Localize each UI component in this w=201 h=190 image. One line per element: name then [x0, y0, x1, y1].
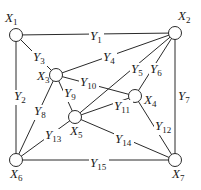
- node-label-x1: X1: [4, 10, 17, 27]
- node-label-x2: X2: [177, 8, 190, 25]
- node-label-x3: X3: [36, 68, 50, 85]
- node-x6: [10, 154, 23, 167]
- node-x2: [169, 27, 182, 40]
- diagram-svg: Y1Y2Y3Y4Y5Y6Y7Y8Y9Y10Y11Y12Y13Y14Y15X1X2…: [0, 0, 201, 190]
- node-x3: [50, 69, 63, 82]
- labels-layer: Y1Y2Y3Y4Y5Y6Y7Y8Y9Y10Y11Y12Y13Y14Y15X1X2…: [4, 8, 192, 183]
- node-label-x7: X7: [171, 166, 185, 183]
- node-label-x6: X6: [9, 166, 23, 183]
- network-diagram: Y1Y2Y3Y4Y5Y6Y7Y8Y9Y10Y11Y12Y13Y14Y15X1X2…: [0, 0, 201, 190]
- node-label-x5: X5: [69, 123, 83, 140]
- node-x1: [10, 29, 23, 42]
- node-x7: [169, 154, 182, 167]
- node-label-x4: X4: [143, 92, 157, 109]
- node-x5: [69, 111, 82, 124]
